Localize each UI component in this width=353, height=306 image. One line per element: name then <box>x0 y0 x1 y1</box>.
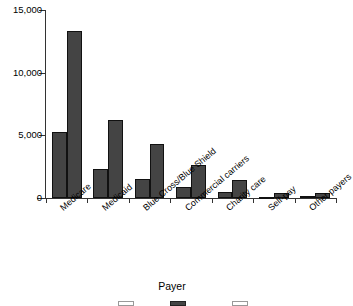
legend-swatch <box>118 301 134 306</box>
x-axis-title: Payer <box>0 280 344 292</box>
x-axis-category-labels: MedicareMedicaidBlue Cross/Blue ShieldCo… <box>0 198 344 278</box>
legend-swatch <box>170 301 186 306</box>
bar <box>135 179 150 198</box>
legend-swatch <box>232 301 248 306</box>
bar <box>93 169 108 198</box>
bar <box>67 31 82 198</box>
bar <box>52 132 67 198</box>
legend <box>0 299 344 306</box>
bar <box>176 187 191 198</box>
